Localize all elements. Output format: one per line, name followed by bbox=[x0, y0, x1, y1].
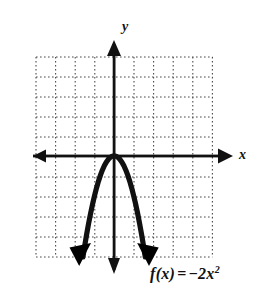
y-axis-arrow-up bbox=[107, 40, 121, 56]
y-axis-arrow-down bbox=[108, 258, 120, 274]
function-equation-label: f(x)=−2x2 bbox=[150, 266, 220, 282]
x-axis bbox=[33, 149, 233, 164]
function-argument: (x) bbox=[156, 265, 176, 282]
x-axis-arrow-left bbox=[33, 150, 46, 163]
x-axis-label: x bbox=[239, 148, 246, 162]
graph-figure: y x f(x)=−2x2 bbox=[0, 0, 261, 300]
variable: x bbox=[206, 265, 214, 282]
exponent: 2 bbox=[215, 264, 220, 275]
minus-sign: − bbox=[189, 265, 198, 282]
coordinate-plane bbox=[0, 0, 261, 300]
x-axis-arrow-right bbox=[218, 149, 233, 164]
y-axis-label: y bbox=[122, 20, 128, 34]
equals-sign: = bbox=[175, 265, 188, 282]
curve-arrow-right bbox=[137, 243, 159, 266]
curve-arrow-left bbox=[70, 243, 92, 266]
